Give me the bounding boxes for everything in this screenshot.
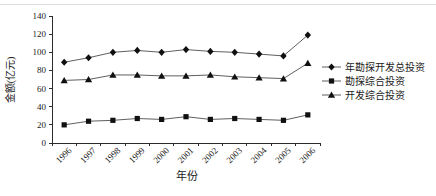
y-tick-label: 100	[33, 47, 47, 57]
series-2	[61, 60, 312, 83]
x-tick-label: 2001	[176, 145, 196, 165]
y-tick-label: 40	[37, 102, 47, 112]
y-tick-label: 120	[33, 29, 47, 39]
series-0-marker	[110, 49, 116, 56]
x-tick-label: 2003	[224, 145, 244, 165]
series-1-marker	[135, 116, 140, 121]
series-1	[62, 112, 311, 127]
x-tick-label: 1998	[103, 145, 123, 165]
series-1-marker	[110, 118, 115, 123]
x-tick-label: 2005	[273, 145, 293, 165]
series-0-marker	[158, 49, 164, 56]
legend-item-1: 勘探综合投资	[322, 75, 405, 87]
axes	[52, 16, 320, 143]
x-tick-label: 1997	[78, 145, 98, 165]
legend-label: 开发综合投资	[345, 89, 405, 101]
y-tick-label: 20	[37, 120, 47, 130]
x-tick-label: 2002	[200, 145, 220, 165]
x-axis-title: 年份	[176, 169, 198, 182]
y-tick-label: 80	[37, 65, 47, 75]
series-0-marker	[134, 47, 140, 54]
legend-label: 勘探综合投资	[345, 75, 405, 87]
series-1-marker	[183, 114, 188, 119]
y-tick-label: 60	[37, 84, 47, 94]
series-1-marker	[256, 117, 261, 122]
figure: 0204060801001201401996199719981999200020…	[0, 0, 436, 196]
x-tick-label: 1996	[54, 145, 74, 165]
line-chart: 0204060801001201401996199719981999200020…	[0, 0, 436, 196]
series-0-marker	[207, 48, 213, 55]
series-0	[61, 31, 311, 65]
x-tick-label: 2000	[151, 145, 171, 165]
legend-label: 年勘探开发总投资	[345, 61, 425, 73]
series-1-marker	[208, 117, 213, 122]
series-2-marker	[304, 60, 311, 66]
series-1-marker	[159, 117, 164, 122]
y-tick-label: 0	[42, 138, 47, 148]
legend-item-2: 开发综合投资	[322, 89, 405, 101]
y-tick-label: 140	[33, 11, 47, 21]
series-0-marker	[183, 46, 189, 53]
x-tick-label: 2006	[297, 145, 317, 165]
x-tick-label: 2004	[249, 145, 269, 165]
legend-item-0: 年勘探开发总投资	[322, 61, 425, 73]
x-tick-label: 1999	[127, 145, 147, 165]
series-1-marker	[305, 112, 310, 117]
series-1-marker	[62, 122, 67, 127]
y-axis-title: 金额(亿元)	[4, 57, 17, 104]
series-1-marker	[86, 119, 91, 124]
series-1-marker	[281, 118, 286, 123]
series-0-marker	[85, 54, 91, 61]
legend-square-icon	[329, 78, 334, 83]
series-0-marker	[232, 49, 238, 56]
series-0-marker	[61, 59, 67, 66]
series-1-marker	[232, 116, 237, 121]
legend-diamond-icon	[328, 63, 334, 70]
series-0-marker	[256, 51, 262, 58]
